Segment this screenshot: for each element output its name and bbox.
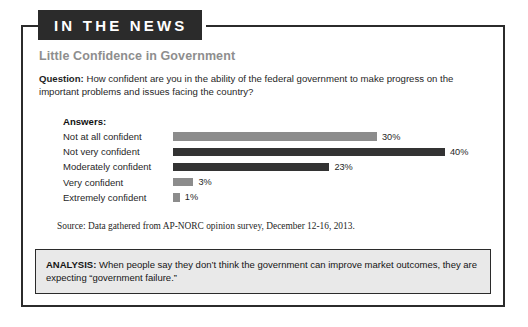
feature-content: Little Confidence in Government Question…: [23, 27, 503, 231]
banner-label: IN THE NEWS: [54, 17, 188, 34]
chart-bar: [173, 132, 377, 140]
chart-row-label: Not at all confident: [63, 131, 173, 142]
chart-row-label: Not very confident: [63, 146, 173, 157]
question-body: How confident are you in the ability of …: [39, 73, 453, 97]
bar-chart: Not at all confident30%Not very confiden…: [63, 130, 487, 204]
chart-row: Not at all confident30%: [63, 130, 487, 144]
chart-bar-wrap: 23%: [173, 162, 487, 172]
answers-label: Answers:: [63, 116, 487, 127]
chart-bar-wrap: 1%: [173, 192, 487, 202]
question-label: Question:: [39, 73, 84, 84]
chart-bar-value: 3%: [198, 177, 211, 187]
question-text: Question: How confident are you in the a…: [39, 72, 487, 99]
in-the-news-banner: IN THE NEWS: [38, 10, 202, 40]
chart-row: Extremely confident1%: [63, 191, 487, 205]
chart-bar-wrap: 30%: [173, 132, 487, 142]
chart-bar: [173, 178, 193, 186]
chart-row-label: Extremely confident: [63, 192, 173, 203]
chart-bar-wrap: 40%: [173, 147, 487, 157]
source-note: Source: Data gathered from AP-NORC opini…: [57, 221, 487, 231]
analysis-box: ANALYSIS: When people say they don’t thi…: [35, 249, 491, 294]
analysis-text: ANALYSIS: When people say they don’t thi…: [46, 258, 480, 284]
chart-bar-value: 23%: [334, 162, 352, 172]
chart-bar: [173, 193, 180, 201]
news-feature-box: Little Confidence in Government Question…: [21, 25, 505, 307]
chart-bar-value: 1%: [185, 192, 198, 202]
chart-row: Not very confident40%: [63, 145, 487, 159]
chart-bar: [173, 163, 329, 171]
chart-row-label: Moderately confident: [63, 161, 173, 172]
chart-bar: [173, 148, 445, 156]
chart-row-label: Very confident: [63, 177, 173, 188]
chart-bar-wrap: 3%: [173, 177, 487, 187]
chart-bar-value: 30%: [382, 132, 400, 142]
analysis-body: When people say they don’t think the gov…: [46, 259, 477, 283]
page-title: Little Confidence in Government: [39, 49, 487, 63]
chart-row: Moderately confident23%: [63, 160, 487, 174]
chart-row: Very confident3%: [63, 175, 487, 189]
analysis-label: ANALYSIS:: [46, 259, 96, 270]
chart-bar-value: 40%: [450, 147, 468, 157]
